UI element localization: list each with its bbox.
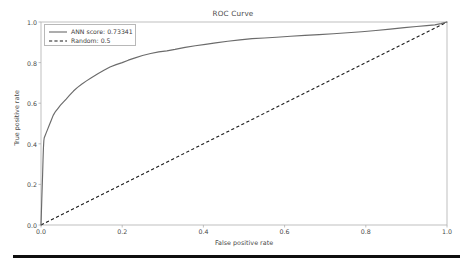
x-tick-label: 0.4	[198, 228, 208, 235]
page-separator-bar	[13, 255, 460, 258]
y-tick-label: 1.0	[20, 19, 37, 26]
y-tick-label: 0.6	[20, 100, 37, 107]
x-tick-label: 0.0	[36, 228, 46, 235]
legend-label-ann: ANN score: 0.73341	[71, 28, 133, 35]
legend-solid-line-icon	[48, 28, 68, 36]
roc-curve-figure: ROC Curve 0.00.20.40.60.81.0 0.00.20.40.…	[0, 0, 466, 265]
chart-legend[interactable]: ANN score: 0.73341 Random: 0.5	[44, 24, 136, 46]
y-tick-label: 0.0	[20, 222, 37, 229]
x-tick-label: 0.8	[361, 228, 371, 235]
x-tick-label: 0.6	[280, 228, 290, 235]
x-axis-label: False positive rate	[41, 239, 447, 247]
x-tick-label: 0.2	[117, 228, 127, 235]
y-axis-label: True positive rate	[13, 68, 21, 168]
y-tick-label: 0.4	[20, 140, 37, 147]
y-tick-label: 0.2	[20, 181, 37, 188]
legend-label-random: Random: 0.5	[71, 37, 111, 44]
y-tick-label: 0.8	[20, 59, 37, 66]
legend-dashed-line-icon	[48, 37, 68, 45]
legend-item-ann: ANN score: 0.73341	[48, 27, 132, 36]
legend-item-random: Random: 0.5	[48, 36, 132, 45]
x-tick-label: 1.0	[442, 228, 452, 235]
